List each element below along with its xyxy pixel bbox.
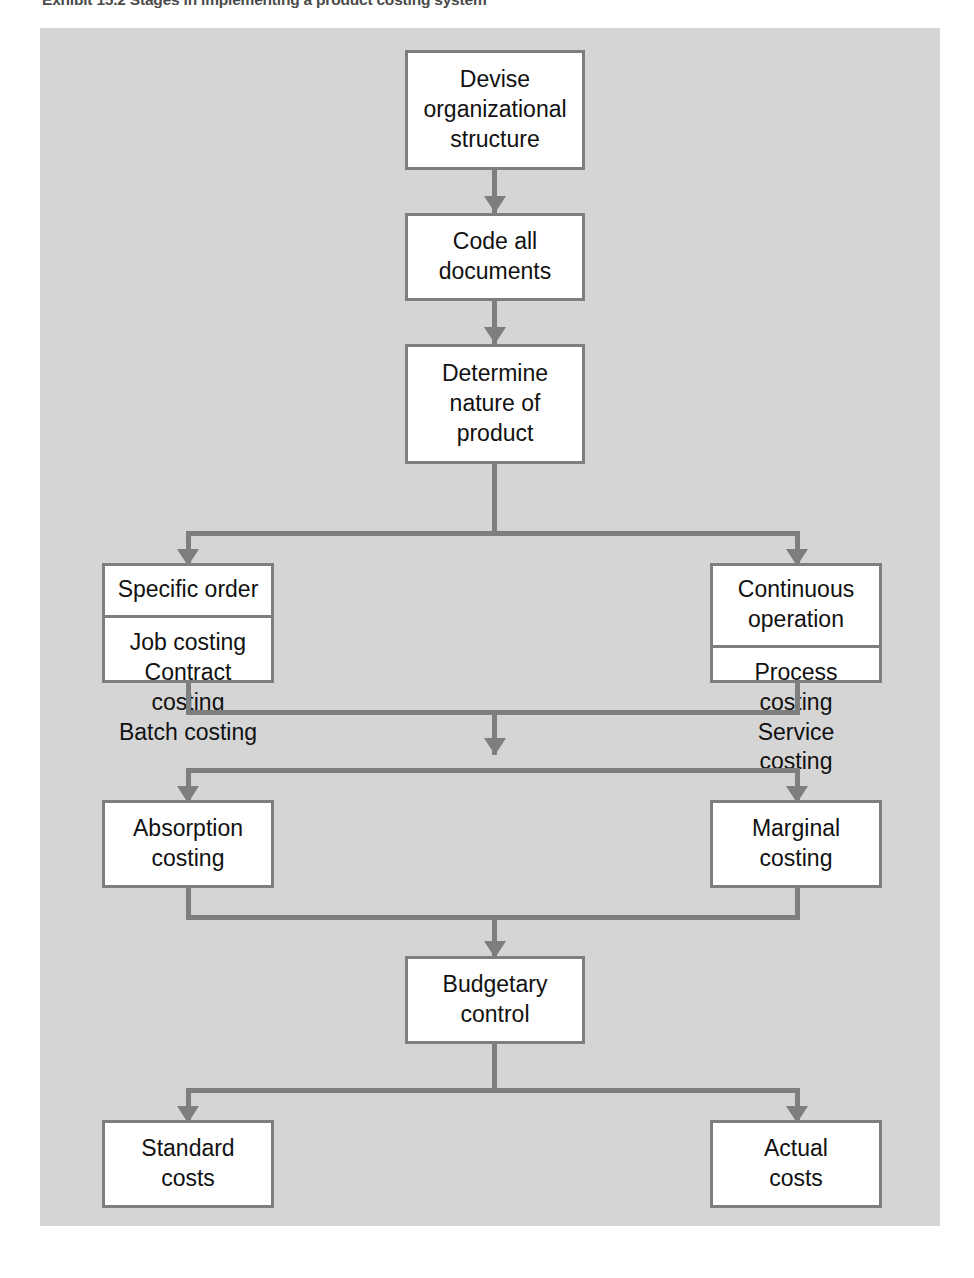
connector-budgetary-split-bar <box>186 1088 800 1093</box>
node-label: Actual costs <box>713 1134 879 1194</box>
node-absorption-costing: Absorption costing <box>102 800 274 888</box>
connector-budgetary-stem <box>492 1044 497 1092</box>
node-continuous-operation: Continuous operation Process costing Ser… <box>710 563 882 683</box>
node-label: Marginal costing <box>713 814 879 874</box>
arrowhead-devise-to-code <box>484 196 506 213</box>
flowchart-panel: Devise organizational structure Code all… <box>40 28 940 1226</box>
node-label: Determine nature of product <box>408 359 582 449</box>
connector-determine-split-bar <box>186 531 800 536</box>
arrowhead-merge-costing <box>484 738 506 755</box>
node-label: Budgetary control <box>408 970 582 1030</box>
node-marginal-costing: Marginal costing <box>710 800 882 888</box>
exhibit-title: Exhibit 15.2 Stages in implementing a pr… <box>42 0 487 9</box>
arrowhead-code-to-determine <box>484 327 506 344</box>
node-devise-organizational-structure: Devise organizational structure <box>405 50 585 170</box>
connector-split-bar-costing <box>186 768 800 773</box>
node-determine-nature-of-product: Determine nature of product <box>405 344 585 464</box>
node-code-all-documents: Code all documents <box>405 213 585 301</box>
node-header-label: Continuous operation <box>713 566 879 645</box>
connector-determine-stem <box>492 464 497 536</box>
node-header-label: Specific order <box>105 566 271 615</box>
node-actual-costs: Actual costs <box>710 1120 882 1208</box>
node-label: Devise organizational structure <box>408 65 582 155</box>
node-budgetary-control: Budgetary control <box>405 956 585 1044</box>
node-label: Code all documents <box>408 227 582 287</box>
node-label: Absorption costing <box>105 814 271 874</box>
node-standard-costs: Standard costs <box>102 1120 274 1208</box>
node-label: Standard costs <box>105 1134 271 1194</box>
node-specific-order: Specific order Job costing Contract cost… <box>102 563 274 683</box>
